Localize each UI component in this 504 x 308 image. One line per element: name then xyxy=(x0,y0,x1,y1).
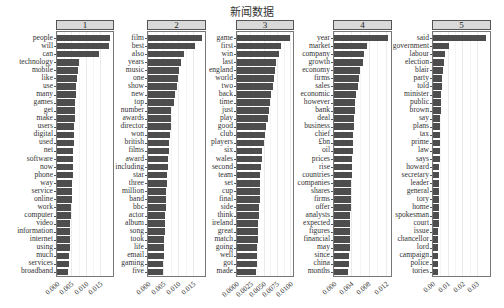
minor-gridline xyxy=(470,32,471,276)
y-axis-label: tories xyxy=(412,267,429,275)
y-tick xyxy=(331,151,333,152)
gridline xyxy=(193,32,194,276)
bar-sales xyxy=(334,83,358,90)
y-tick xyxy=(54,240,56,241)
bar-awards xyxy=(148,115,171,122)
y-tick xyxy=(145,95,147,96)
x-tick-label: 0.02 xyxy=(452,280,467,294)
bar-five xyxy=(148,269,163,276)
y-tick xyxy=(145,272,147,273)
y-tick xyxy=(331,207,333,208)
y-tick xyxy=(234,46,236,47)
bar-get xyxy=(57,107,75,114)
facet-strip-label: 1 xyxy=(56,20,114,30)
bar-well xyxy=(237,253,257,260)
y-tick xyxy=(145,199,147,200)
bar-since xyxy=(334,253,349,260)
y-tick xyxy=(331,95,333,96)
y-axis-label: months xyxy=(308,267,330,275)
bar-actor xyxy=(148,212,165,219)
y-tick xyxy=(54,256,56,257)
y-tick xyxy=(145,78,147,79)
bar-chancellor xyxy=(433,236,438,243)
bar-side xyxy=(237,204,259,211)
bar-prices xyxy=(334,156,352,163)
bar-video xyxy=(57,220,70,227)
x-tick-label: 0.015 xyxy=(87,280,105,297)
bar-growth xyxy=(334,59,363,66)
bar-including xyxy=(148,164,168,171)
bar-broadband xyxy=(57,269,68,276)
y-tick xyxy=(331,216,333,217)
y-tick xyxy=(234,183,236,184)
y-tick xyxy=(145,264,147,265)
y-tick xyxy=(145,216,147,217)
bar-director xyxy=(148,123,171,130)
bar-economy xyxy=(334,67,360,74)
y-tick xyxy=(234,70,236,71)
bar-service xyxy=(57,188,72,195)
bar-game xyxy=(237,35,290,42)
y-tick xyxy=(145,207,147,208)
y-tick xyxy=(54,127,56,128)
y-tick xyxy=(145,143,147,144)
bar-got xyxy=(237,261,257,268)
bar-chief xyxy=(334,132,353,139)
y-tick xyxy=(331,111,333,112)
bar-films xyxy=(148,148,169,155)
y-tick xyxy=(331,264,333,265)
bar-court xyxy=(433,220,439,227)
plot-area xyxy=(333,31,392,277)
bar-first xyxy=(237,43,281,50)
y-tick xyxy=(54,70,56,71)
bar-home xyxy=(433,204,439,211)
bar-used xyxy=(57,140,74,147)
y-tick xyxy=(145,151,147,152)
bar-labour xyxy=(433,51,445,58)
y-tick xyxy=(430,167,432,168)
bar-last xyxy=(237,59,276,66)
gridline xyxy=(462,32,463,276)
y-tick xyxy=(54,272,56,273)
bar-tories xyxy=(433,269,438,276)
y-tick xyxy=(54,175,56,176)
bar-cup xyxy=(237,188,260,195)
bar-win xyxy=(237,51,279,58)
x-tick-label: 0.03 xyxy=(466,280,481,294)
bar-deal xyxy=(334,115,354,122)
y-tick xyxy=(54,167,56,168)
bar-oil xyxy=(334,148,353,155)
bar-told xyxy=(433,83,442,90)
bar-players xyxy=(237,140,264,147)
bar-way xyxy=(57,180,72,187)
bar-gaming xyxy=(148,261,163,268)
bar-plans xyxy=(433,123,440,130)
y-tick xyxy=(331,54,333,55)
bar-leader xyxy=(433,180,439,187)
y-tick xyxy=(430,264,432,265)
y-tick xyxy=(54,103,56,104)
bar-issue xyxy=(433,228,438,235)
bar-england xyxy=(237,67,275,74)
x-tick-label: 0.008 xyxy=(355,280,373,297)
facet-strip-label: 3 xyxy=(236,20,294,30)
y-tick xyxy=(430,175,432,176)
y-tick xyxy=(145,70,147,71)
bar-one xyxy=(148,75,178,82)
bar-business xyxy=(334,123,354,130)
y-tick xyxy=(234,216,236,217)
y-tick xyxy=(430,159,432,160)
y-tick xyxy=(234,175,236,176)
y-tick xyxy=(234,232,236,233)
y-tick xyxy=(54,54,56,55)
x-tick-label: 0.015 xyxy=(180,280,198,297)
bar-match xyxy=(237,236,258,243)
y-tick xyxy=(331,70,333,71)
bar-much xyxy=(57,253,69,260)
y-tick xyxy=(430,216,432,217)
y-tick xyxy=(234,224,236,225)
minor-gridline xyxy=(360,32,361,276)
plot-area xyxy=(432,31,491,277)
y-tick xyxy=(234,111,236,112)
bar-games xyxy=(57,99,75,106)
